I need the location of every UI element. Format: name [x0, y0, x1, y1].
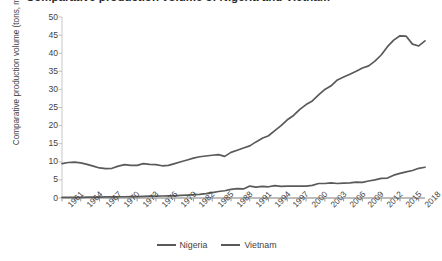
- legend-line-icon-nigeria: [157, 244, 176, 246]
- x-tick-label: 1997: [291, 203, 297, 209]
- x-tick-label: 1985: [216, 203, 222, 209]
- x-tick-label: 1994: [273, 203, 279, 209]
- x-tick-label: 1964: [85, 203, 91, 209]
- x-tick-label: 2006: [348, 203, 354, 209]
- x-tick-label: 1973: [141, 203, 147, 209]
- legend-item-vietnam[interactable]: Vietnam: [221, 240, 276, 250]
- x-tick-label: 2015: [404, 203, 410, 209]
- x-tick-label: 2018: [423, 203, 429, 209]
- x-tick-label: 2000: [310, 203, 316, 209]
- legend-line-icon-vietnam: [221, 244, 240, 246]
- x-tick-label: 1982: [197, 203, 203, 209]
- x-tick-label: 1961: [66, 203, 72, 209]
- x-tick-label: 1988: [235, 203, 241, 209]
- legend-label-nigeria: Nigeria: [180, 240, 208, 250]
- chart-legend: Nigeria Vietnam: [0, 240, 433, 250]
- x-tick-label: 1979: [179, 203, 185, 209]
- x-tick-label: 1967: [104, 203, 110, 209]
- x-tick-label: 1991: [254, 203, 260, 209]
- x-tick-label: 2003: [329, 203, 335, 209]
- x-tick-label: 1976: [160, 203, 166, 209]
- x-tick-label: 2012: [385, 203, 391, 209]
- legend-item-nigeria[interactable]: Nigeria: [157, 240, 208, 250]
- x-tick-label: 1970: [122, 203, 128, 209]
- x-tick-label: 2009: [366, 203, 372, 209]
- legend-label-vietnam: Vietnam: [244, 240, 276, 250]
